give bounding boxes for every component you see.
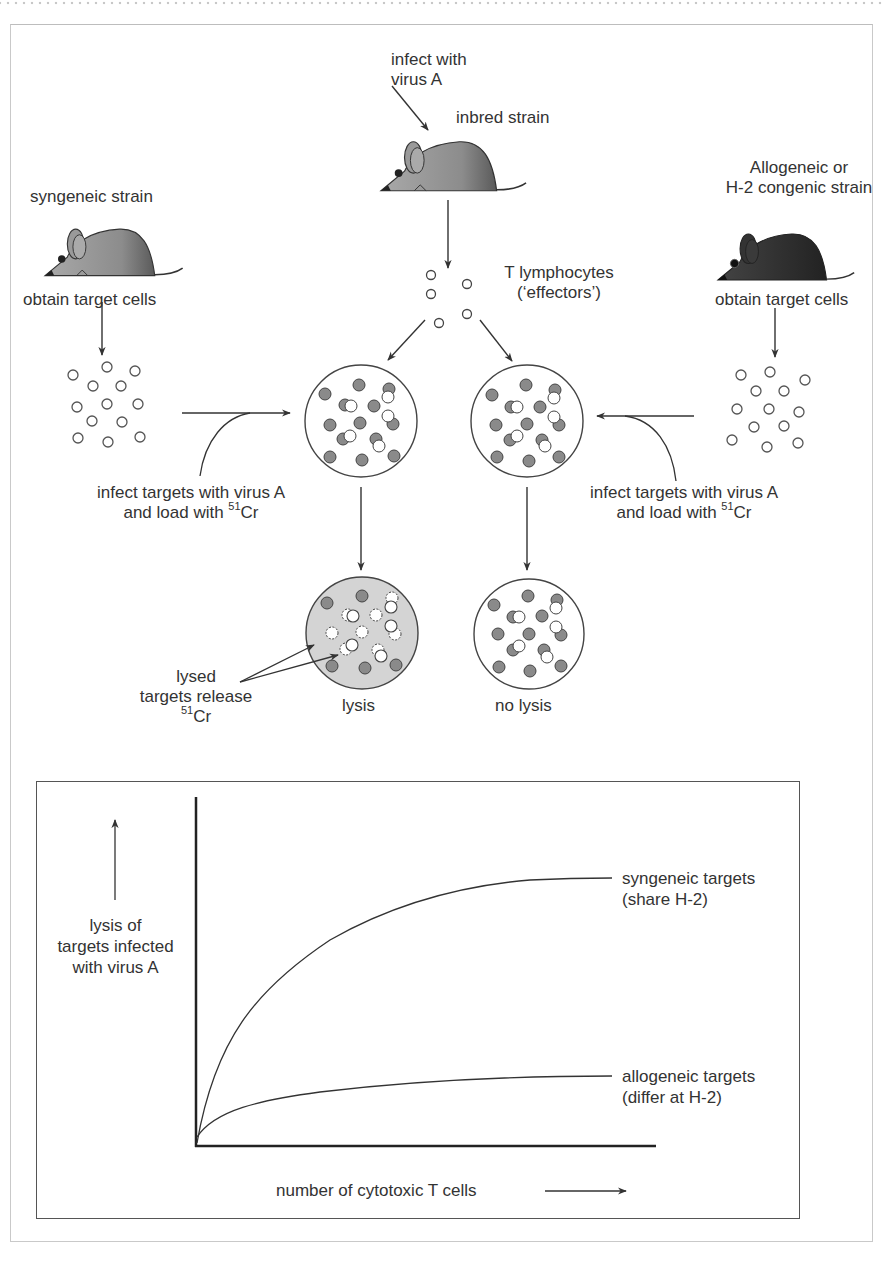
x-axis-label: number of cytotoxic T cells	[276, 1181, 477, 1201]
infect-arrow	[392, 86, 428, 130]
outcome-lysis-label: lysis	[342, 696, 375, 716]
lysed-line1: lysed	[126, 667, 266, 687]
lysed-isotope-mass: 51	[181, 704, 193, 716]
right-infect-instruction: infect targets with virus A and load wit…	[563, 483, 805, 523]
mouse-icon-syngeneic	[45, 229, 183, 276]
allogeneic-label-line1: Allogeneic or	[724, 158, 874, 178]
allogeneic-label-line2: H-2 congenic strain	[724, 178, 874, 198]
syngeneic-label-line1: syngeneic targets	[622, 868, 755, 889]
left-infect-line1: infect targets with virus A	[70, 483, 312, 503]
chart-frame	[36, 781, 800, 1219]
y-label-line1: lysis of	[38, 915, 193, 936]
arrow-tcells-to-left-well	[388, 320, 425, 360]
effector-label-line1: T lymphocytes	[494, 263, 624, 283]
t-cell-icon	[427, 271, 472, 328]
target-cell-cluster-left	[68, 362, 145, 447]
left-obtain-label: obtain target cells	[23, 290, 156, 310]
effector-label: T lymphocytes (‘effectors’)	[494, 263, 624, 303]
allogeneic-label-line1: allogeneic targets	[622, 1066, 755, 1087]
infect-label: infect with virus A	[391, 50, 467, 90]
allogeneic-label-line2: (differ at H-2)	[622, 1087, 755, 1108]
infect-label-line1: infect with	[391, 50, 467, 70]
curve-right-infect	[625, 416, 676, 481]
right-infect-line1: infect targets with virus A	[563, 483, 805, 503]
effector-label-line2: (‘effectors’)	[494, 283, 624, 303]
syngeneic-strain-label: syngeneic strain	[30, 187, 153, 207]
curve-left-infect	[200, 413, 250, 476]
right-infect-line2: and load with 51Cr	[563, 503, 805, 523]
left-isotope-mass: 51	[228, 500, 240, 512]
y-axis-label: lysis of targets infected with virus A	[38, 915, 193, 978]
mouse-icon-allogeneic	[718, 234, 854, 280]
well-icon-lysis	[306, 577, 418, 689]
right-isotope-mass: 51	[721, 500, 733, 512]
well-icon-left-top	[305, 365, 417, 477]
outcome-no-lysis-label: no lysis	[495, 696, 552, 716]
infect-label-line2: virus A	[391, 70, 467, 90]
left-infect-prefix: and load with	[123, 503, 228, 522]
left-infect-instruction: infect targets with virus A and load wit…	[70, 483, 312, 523]
right-isotope-symbol: Cr	[734, 503, 752, 522]
lysed-line3: 51Cr	[126, 707, 266, 727]
left-isotope-symbol: Cr	[241, 503, 259, 522]
lysed-line2: targets release	[126, 687, 266, 707]
lysed-targets-label: lysed targets release 51Cr	[126, 667, 266, 727]
well-icon-right-top	[471, 365, 583, 477]
well-icon-no-lysis	[474, 579, 584, 689]
y-label-line3: with virus A	[38, 957, 193, 978]
right-obtain-label: obtain target cells	[715, 290, 848, 310]
inbred-strain-label: inbred strain	[456, 108, 550, 128]
left-infect-line2: and load with 51Cr	[70, 503, 312, 523]
allogeneic-strain-label: Allogeneic or H-2 congenic strain	[724, 158, 874, 198]
arrow-tcells-to-right-well	[480, 320, 512, 361]
right-infect-prefix: and load with	[616, 503, 721, 522]
series-label-allogeneic: allogeneic targets (differ at H-2)	[622, 1066, 755, 1108]
y-label-line2: targets infected	[38, 936, 193, 957]
lysed-isotope-symbol: Cr	[193, 707, 211, 726]
series-label-syngeneic: syngeneic targets (share H-2)	[622, 868, 755, 910]
syngeneic-label-line2: (share H-2)	[622, 889, 755, 910]
target-cell-cluster-right	[727, 367, 810, 452]
mouse-icon-inbred	[381, 142, 526, 191]
